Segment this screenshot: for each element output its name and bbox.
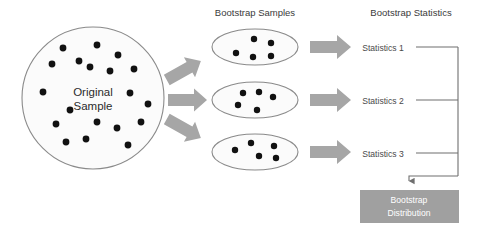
sample-dot [76, 58, 83, 65]
sample-dot [115, 52, 122, 59]
sample-dot [53, 121, 60, 128]
fan-arrows [161, 51, 207, 148]
bootstrap-dot [256, 153, 262, 159]
bootstrap-dot [256, 89, 262, 95]
sample-dot [49, 61, 56, 68]
bootstrap-sample-1 [212, 29, 298, 65]
header-bootstrap-samples: Bootstrap Samples [215, 7, 296, 18]
original-sample-label-line1: Original [73, 86, 113, 98]
connector-to-box [409, 176, 458, 181]
distribution-label-line2: Distribution [388, 208, 431, 218]
bootstrap-dot [273, 155, 279, 161]
bootstrap-dot [271, 143, 277, 149]
header-bootstrap-statistics: Bootstrap Statistics [370, 7, 452, 18]
sample-dot [83, 136, 90, 143]
original-sample-group: Original Sample [22, 27, 164, 169]
bootstrap-sample-ellipse [212, 82, 298, 118]
bootstrap-sample-2 [212, 82, 298, 118]
sample-dot [131, 66, 138, 73]
sample-dot [40, 89, 47, 96]
fan-arrow-down-icon [161, 109, 206, 148]
sample-dot [67, 107, 74, 114]
fan-arrow-straight-icon [168, 89, 207, 112]
sample-dot [63, 139, 70, 146]
sample-dot [125, 142, 132, 149]
original-sample-circle [22, 27, 164, 169]
bootstrap-dot [268, 53, 274, 59]
sample-dot [114, 125, 121, 132]
sample-dot [107, 68, 114, 75]
statistics-connector-bracket [409, 47, 458, 181]
sample-dot [138, 119, 145, 126]
sample-dot [145, 101, 152, 108]
bootstrap-dot [233, 50, 239, 56]
sample-dot [127, 90, 134, 97]
bootstrap-dot [251, 36, 257, 42]
bootstrap-dot [235, 102, 241, 108]
bootstrap-dot [248, 140, 254, 146]
bootstrap-dot [268, 40, 274, 46]
bootstrap-sample-ellipse [212, 29, 298, 65]
bootstrap-dot [254, 107, 260, 113]
statistics-3-label: Statistics 3 [362, 149, 404, 159]
sample-dot [94, 42, 101, 49]
transfer-arrow-1-icon [310, 35, 351, 59]
bootstrap-dot [232, 147, 238, 153]
statistics-1-label: Statistics 1 [362, 43, 404, 53]
statistics-2-label: Statistics 2 [362, 96, 404, 106]
bootstrap-dot [270, 94, 276, 100]
sample-dot [94, 119, 101, 126]
bootstrap-sample-ellipse [212, 134, 298, 170]
bootstrap-dot [250, 54, 256, 60]
transfer-arrows [310, 35, 351, 164]
bootstrap-diagram: Bootstrap Samples Bootstrap Statistics [0, 0, 480, 238]
bootstrap-dot [240, 90, 246, 96]
original-sample-label-line2: Sample [74, 100, 113, 112]
fan-arrow-up-icon [161, 51, 206, 90]
distribution-label-line1: Bootstrap [391, 195, 428, 205]
bootstrap-sample-3 [212, 134, 298, 170]
sample-dot [87, 64, 94, 71]
sample-dot [60, 45, 67, 52]
transfer-arrow-3-icon [310, 140, 351, 164]
transfer-arrow-2-icon [310, 88, 351, 112]
bootstrap-distribution-box: Bootstrap Distribution [360, 190, 459, 223]
